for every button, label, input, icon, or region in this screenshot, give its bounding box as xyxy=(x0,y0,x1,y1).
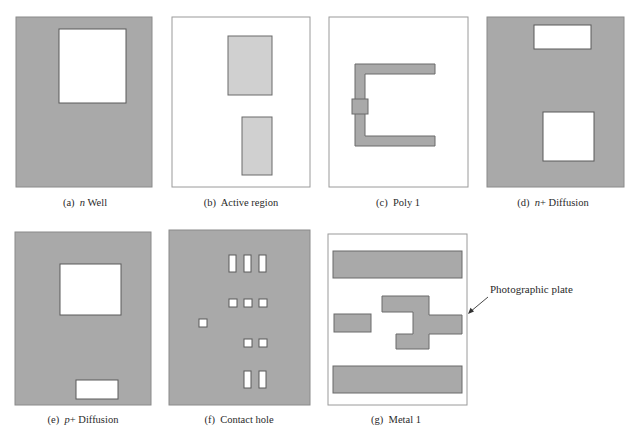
caption-d: (d) n+ Diffusion xyxy=(517,197,588,208)
caption-g: (g) Metal 1 xyxy=(371,414,421,425)
mask-poly-1 xyxy=(329,17,468,187)
mask-n-plus-diffusion xyxy=(487,17,624,187)
mask-p-plus-diffusion xyxy=(15,232,151,405)
caption-f: (f) Contact hole xyxy=(204,414,273,425)
arrow-icon xyxy=(468,297,488,314)
mask-n-well xyxy=(16,17,152,187)
caption-e: (e) p+ Diffusion xyxy=(48,414,119,425)
mask-metal-1 xyxy=(328,234,467,405)
caption-c: (c) Poly 1 xyxy=(376,197,420,208)
mask-contact-hole xyxy=(169,230,310,405)
caption-a: (a) n Well xyxy=(63,197,107,208)
mask-active-region xyxy=(172,17,310,187)
photographic-plate-label: Photographic plate xyxy=(490,283,573,295)
caption-b: (b) Active region xyxy=(204,197,278,208)
mask-diagram xyxy=(0,0,637,439)
